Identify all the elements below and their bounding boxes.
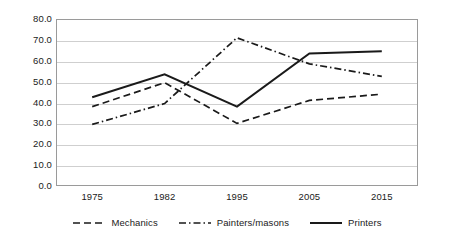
legend-swatch-painters-masons xyxy=(178,218,212,228)
x-axis-labels: 19751982199520052015 xyxy=(56,191,418,207)
y-axis-tick-label: 40.0 xyxy=(4,98,52,108)
x-axis-tick-label: 1995 xyxy=(226,191,248,203)
x-axis-tick-label: 2005 xyxy=(299,191,321,203)
y-axis-labels: 0.010.020.030.040.050.060.070.080.0 xyxy=(0,0,52,241)
legend-label-mechanics: Mechanics xyxy=(111,217,157,228)
legend-item-printers[interactable]: Printers xyxy=(309,217,382,228)
y-axis-tick-label: 50.0 xyxy=(4,77,52,87)
series-line-mechanics xyxy=(92,83,382,124)
y-axis-tick-label: 0.0 xyxy=(4,181,52,191)
line-chart: 0.010.020.030.040.050.060.070.080.0 1975… xyxy=(0,0,454,241)
x-axis-tick-label: 2015 xyxy=(371,191,393,203)
x-axis-tick-label: 1975 xyxy=(81,191,103,203)
y-axis-tick-label: 10.0 xyxy=(4,160,52,170)
legend-label-painters-masons: Painters/masons xyxy=(217,217,289,228)
legend-swatch-printers xyxy=(309,218,343,228)
series-line-painters-masons xyxy=(92,38,382,125)
y-axis-tick-label: 20.0 xyxy=(4,139,52,149)
legend-label-printers: Printers xyxy=(348,217,382,228)
legend-swatch-mechanics xyxy=(72,218,106,228)
legend-item-painters-masons[interactable]: Painters/masons xyxy=(178,217,289,228)
legend-item-mechanics[interactable]: Mechanics xyxy=(72,217,157,228)
y-axis-tick-label: 70.0 xyxy=(4,35,52,45)
y-axis-tick-label: 60.0 xyxy=(4,56,52,66)
x-axis-tick-label: 1982 xyxy=(154,191,176,203)
legend: MechanicsPainters/masonsPrinters xyxy=(0,217,454,228)
series-layer xyxy=(56,19,418,186)
gridline xyxy=(57,187,417,188)
y-axis-tick-label: 80.0 xyxy=(4,14,52,24)
y-axis-tick-label: 30.0 xyxy=(4,118,52,128)
